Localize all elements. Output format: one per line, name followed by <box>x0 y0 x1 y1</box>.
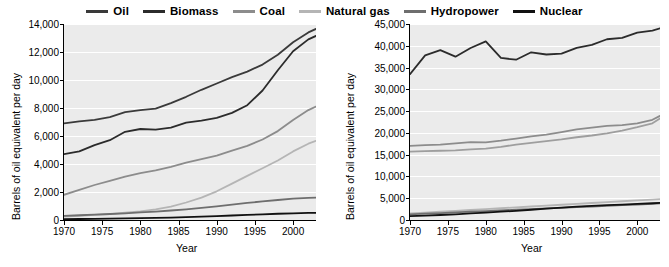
chart-panel-right: 05,00010,00015,00020,00025,00030,00035,0… <box>334 18 669 267</box>
legend-label-oil: Oil <box>113 5 129 17</box>
x-tick-label: 2000 <box>282 226 304 237</box>
x-tick-mark <box>179 221 180 225</box>
x-axis-label-right: Year <box>521 242 542 254</box>
x-tick-label: 1985 <box>167 226 189 237</box>
x-tick-label: 1990 <box>206 226 228 237</box>
x-tick-label: 1995 <box>588 226 610 237</box>
legend-swatch-biomass <box>143 10 165 13</box>
series-line-nuclear <box>410 203 660 216</box>
figure-root: Oil Biomass Coal Natural gas Hydropower … <box>0 0 669 267</box>
x-tick-label: 2000 <box>626 226 648 237</box>
y-tick-label: 12,000 <box>0 47 59 58</box>
y-tick-label: 14,000 <box>0 19 59 30</box>
plot-area-left <box>64 24 316 220</box>
series-line-natural-gas <box>410 199 660 213</box>
y-axis-line <box>63 24 64 220</box>
x-tick-mark <box>410 221 411 225</box>
x-tick-label: 1970 <box>399 226 421 237</box>
legend-swatch-coal <box>233 10 255 13</box>
x-tick-mark <box>486 221 487 225</box>
legend-item-natural-gas: Natural gas <box>299 5 390 17</box>
legend-label-hydropower: Hydropower <box>431 5 499 17</box>
x-tick-mark <box>255 221 256 225</box>
x-tick-label: 1990 <box>550 226 572 237</box>
y-tick-label: 2,000 <box>0 187 59 198</box>
x-tick-label: 1995 <box>244 226 266 237</box>
x-tick-mark <box>637 221 638 225</box>
y-tick-label: 35,000 <box>334 62 405 73</box>
legend-item-nuclear: Nuclear <box>513 5 583 17</box>
x-tick-mark <box>448 221 449 225</box>
x-tick-label: 1975 <box>437 226 459 237</box>
y-tick-label: 0 <box>0 215 59 226</box>
legend-swatch-oil <box>86 10 108 13</box>
x-tick-mark <box>599 221 600 225</box>
y-tick-label: 45,000 <box>334 19 405 30</box>
y-axis-label-right: Barrels of oil equivalent per day <box>344 73 356 220</box>
series-line-natural-gas <box>64 141 316 217</box>
legend-swatch-natural-gas <box>299 10 321 13</box>
x-tick-label: 1970 <box>53 226 75 237</box>
series-line-coal <box>64 107 316 195</box>
x-tick-mark <box>524 221 525 225</box>
y-axis-label-left: Barrels of oil equivalent per day <box>10 73 22 220</box>
legend-label-natural-gas: Natural gas <box>326 5 390 17</box>
x-axis-label-left: Year <box>176 242 197 254</box>
y-tick-label: 40,000 <box>334 40 405 51</box>
legend-item-hydropower: Hydropower <box>404 5 499 17</box>
x-tick-mark <box>140 221 141 225</box>
chart-panel-left: 02,0004,0006,0008,00010,00012,00014,000 … <box>0 18 330 267</box>
legend-swatch-hydropower <box>404 10 426 13</box>
x-axis-line <box>63 220 316 221</box>
legend-label-biomass: Biomass <box>170 5 219 17</box>
series-layer <box>64 24 316 220</box>
x-tick-label: 1985 <box>513 226 535 237</box>
x-tick-mark <box>64 221 65 225</box>
series-layer <box>410 24 660 220</box>
y-axis-line <box>409 24 410 220</box>
y-tick-label: 10,000 <box>0 75 59 86</box>
legend-label-nuclear: Nuclear <box>540 5 583 17</box>
x-tick-label: 1980 <box>475 226 497 237</box>
plot-area-right <box>410 24 660 220</box>
legend-label-coal: Coal <box>260 5 285 17</box>
y-tick-label: 4,000 <box>0 159 59 170</box>
y-tick-label: 8,000 <box>0 103 59 114</box>
x-tick-label: 1975 <box>91 226 113 237</box>
series-line-oil <box>410 28 660 74</box>
x-tick-mark <box>562 221 563 225</box>
y-tick-label: 6,000 <box>0 131 59 142</box>
legend-item-biomass: Biomass <box>143 5 219 17</box>
series-line-oil <box>64 29 316 124</box>
x-axis-line <box>409 220 660 221</box>
x-tick-mark <box>102 221 103 225</box>
x-tick-mark <box>293 221 294 225</box>
legend-item-coal: Coal <box>233 5 285 17</box>
x-tick-label: 1980 <box>129 226 151 237</box>
legend-swatch-nuclear <box>513 10 535 13</box>
legend-item-oil: Oil <box>86 5 129 17</box>
x-tick-mark <box>217 221 218 225</box>
